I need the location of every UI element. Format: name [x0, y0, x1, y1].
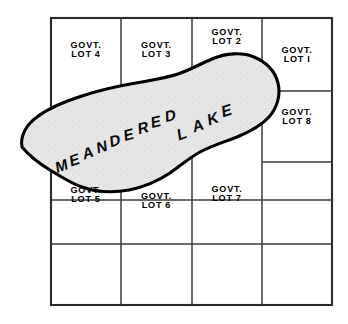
- plat-map-figure: GOVT. LOT 4 GOVT. LOT 3 GOVT. LOT 2 GOVT…: [0, 0, 348, 324]
- lot-label-govt-lot-1: GOVT. LOT I: [262, 46, 332, 65]
- lot-number-text: LOT 5: [51, 195, 121, 204]
- lake-fill: [22, 54, 279, 192]
- lot-number-text: LOT 7: [192, 194, 262, 203]
- lot-label-govt-lot-4: GOVT. LOT 4: [51, 41, 121, 60]
- lot-label-govt-lot-3: GOVT. LOT 3: [121, 41, 192, 60]
- lot-label-govt-lot-7: GOVT. LOT 7: [192, 185, 262, 204]
- lot-number-text: LOT 6: [121, 201, 192, 210]
- lot-number-text: LOT 2: [192, 37, 262, 46]
- lot-label-govt-lot-8: GOVT. LOT 8: [262, 108, 332, 127]
- meandered-lake-shape: [22, 54, 279, 192]
- lot-number-text: LOT 3: [121, 50, 192, 59]
- lot-number-text: LOT I: [262, 55, 332, 64]
- lot-label-govt-lot-6: GOVT. LOT 6: [121, 192, 192, 211]
- lot-label-govt-lot-5: GOVT. LOT 5: [51, 186, 121, 205]
- lot-label-govt-lot-2: GOVT. LOT 2: [192, 28, 262, 47]
- lot-number-text: LOT 4: [51, 50, 121, 59]
- lot-number-text: LOT 8: [262, 117, 332, 126]
